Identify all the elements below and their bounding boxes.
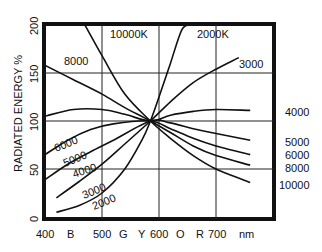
label-10000-right: 10000 xyxy=(279,179,310,191)
curve-8000 xyxy=(45,65,250,165)
x-tick-600: 600 xyxy=(150,228,168,240)
label-6000-left: 6000 xyxy=(52,134,79,154)
y-tick-200: 200 xyxy=(28,17,40,35)
label-4000-right: 4000 xyxy=(285,106,309,118)
x-tick-700: 700 xyxy=(208,228,226,240)
x-tick-500: 500 xyxy=(93,228,111,240)
y-tick-0: 0 xyxy=(28,216,40,222)
label-10000k: 10000K xyxy=(110,28,149,40)
x-tick-r: R xyxy=(196,228,204,240)
y-axis-label: RADIATED ENERGY % xyxy=(12,55,24,172)
label-6000-right: 6000 xyxy=(285,149,309,161)
y-tick-150: 150 xyxy=(28,65,40,83)
gridlines xyxy=(44,24,274,219)
x-unit-nm: nm xyxy=(239,228,254,240)
radiated-energy-chart: 10000K 2000K 8000 3000 4000 6000 5000 40… xyxy=(0,0,322,252)
x-tick-400: 400 xyxy=(36,228,54,240)
y-tick-100: 100 xyxy=(28,113,40,131)
label-5000-right: 5000 xyxy=(285,136,309,148)
label-8000-left: 8000 xyxy=(64,55,88,67)
curves xyxy=(45,25,250,212)
label-3000-right: 3000 xyxy=(239,58,263,70)
label-8000-right: 8000 xyxy=(285,162,309,174)
x-tick-y: Y xyxy=(138,228,146,240)
x-tick-b: B xyxy=(67,228,74,240)
x-tick-g: G xyxy=(119,228,128,240)
y-tick-50: 50 xyxy=(28,164,40,176)
label-2000k: 2000K xyxy=(197,28,229,40)
x-tick-o: O xyxy=(176,228,185,240)
